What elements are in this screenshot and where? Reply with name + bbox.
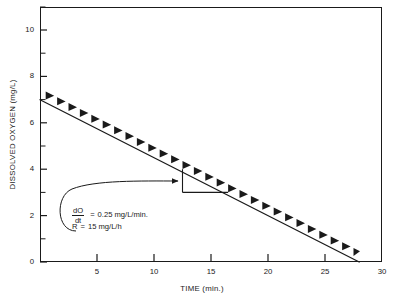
respiration-row: R = 15 mg/L/h [72, 222, 148, 233]
y-tick-label-6: 6 [18, 119, 34, 127]
chart-figure: DISSOLVED OXYGEN (mg/L) TIME (min.) 0 2 … [0, 0, 404, 303]
x-tick-label-20: 20 [264, 268, 273, 276]
x-tick-label-10: 10 [150, 268, 159, 276]
x-tick-label-30: 30 [378, 268, 387, 276]
y-tick-label-0: 0 [18, 258, 34, 266]
x-tick-label-15: 15 [207, 268, 216, 276]
x-axis-title: TIME (min.) [0, 284, 404, 293]
y-tick-label-10: 10 [14, 26, 34, 34]
x-tick-label-5: 5 [95, 268, 99, 276]
respiration-value: 15 mg/L/h [88, 223, 122, 232]
rate-equals-sign: = [90, 211, 94, 220]
respiration-symbol: R [72, 223, 77, 232]
y-axis-title: DISSOLVED OXYGEN (mg/L) [8, 7, 22, 262]
x-tick-label-25: 25 [321, 268, 330, 276]
rate-value: 0.25 mg/L/min. [98, 211, 148, 220]
rate-equation-row: dO dt = 0.25 mg/L/min. [72, 208, 148, 223]
respiration-equals-sign: = [80, 223, 84, 232]
fraction-numerator: dO [72, 207, 84, 216]
y-tick-label-4: 4 [18, 165, 34, 173]
y-tick-label-8: 8 [18, 72, 34, 80]
y-tick-label-2: 2 [18, 212, 34, 220]
rate-annotation: dO dt = 0.25 mg/L/min. R = 15 mg/L/h [72, 208, 148, 233]
